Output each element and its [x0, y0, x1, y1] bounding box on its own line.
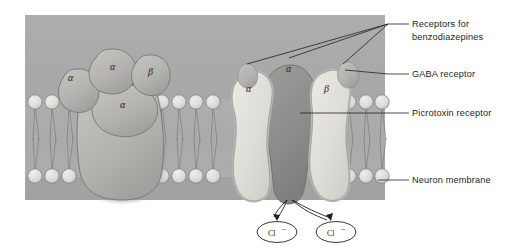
label-benzodiazepines-line2: benzodiazepines — [412, 32, 483, 42]
cross-alpha-left-label: α — [246, 83, 252, 94]
subunit-cross-beta-right — [310, 70, 350, 200]
right-beta-label: β — [147, 66, 153, 77]
chloride-right-label: Cl — [327, 229, 335, 238]
label-gaba-receptor: GABA receptor — [412, 69, 475, 79]
chloride-left-label: Cl — [268, 229, 276, 238]
subunit-cross-alpha-left — [232, 72, 272, 201]
right-receptor-complex: α α β — [232, 62, 359, 204]
front-alpha-label: α — [120, 99, 126, 110]
chloride-ion-right: Cl – — [316, 222, 356, 243]
cross-alpha-center-label: α — [286, 63, 292, 74]
left-alpha-label: α — [68, 72, 74, 83]
top-alpha-label: α — [110, 61, 116, 72]
gaba-receptor-figure: α α β α α α β Cl – — [0, 0, 517, 252]
label-benzodiazepines-line1: Receptors for — [412, 19, 469, 29]
chloride-ion-left: Cl – — [257, 222, 297, 243]
label-picrotoxin-receptor: Picrotoxin receptor — [412, 108, 491, 118]
cross-beta-right-label: β — [323, 83, 329, 94]
label-neuron-membrane: Neuron membrane — [412, 175, 491, 185]
